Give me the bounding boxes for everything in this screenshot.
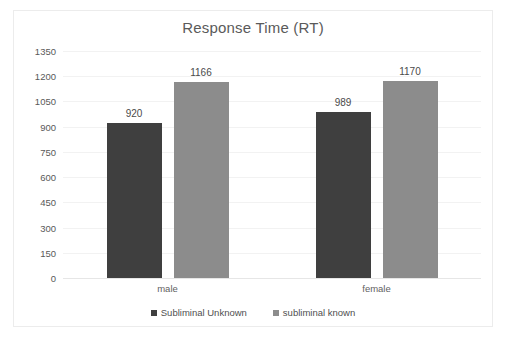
y-axis-tick-label: 300 (40, 222, 56, 233)
legend-item[interactable]: Subliminal Unknown (151, 307, 247, 318)
bar-value-label: 1170 (399, 66, 421, 77)
y-axis-tick-label: 1200 (35, 71, 56, 82)
legend-swatch-icon (273, 310, 279, 316)
bar-value-label: 920 (126, 108, 143, 119)
bar (107, 123, 162, 278)
legend-label: subliminal known (283, 307, 355, 318)
x-axis-category-label: male (157, 283, 178, 294)
y-axis-tick-label: 1350 (35, 46, 56, 57)
legend-swatch-icon (151, 310, 157, 316)
chart-legend: Subliminal Unknownsubliminal known (14, 307, 492, 318)
y-axis-tick-label: 450 (40, 197, 56, 208)
y-axis-tick-label: 750 (40, 146, 56, 157)
gridline (63, 278, 481, 279)
bar (174, 82, 229, 278)
bar (383, 81, 438, 278)
y-axis-tick-label: 0 (51, 273, 56, 284)
y-axis-tick-label: 900 (40, 121, 56, 132)
chart-frame: Response Time (RT) 135012001050900750600… (13, 10, 493, 327)
x-axis-category-label: female (362, 283, 391, 294)
bar-value-label: 989 (335, 97, 352, 108)
chart-title: Response Time (RT) (14, 19, 492, 36)
gridline (63, 51, 481, 52)
legend-item[interactable]: subliminal known (273, 307, 355, 318)
y-axis-tick-label: 600 (40, 172, 56, 183)
plot-area: 13501200105090075060045030015009201166ma… (63, 51, 481, 278)
bar-value-label: 1166 (190, 67, 212, 78)
y-axis-tick-label: 1050 (35, 96, 56, 107)
y-axis-tick-label: 150 (40, 247, 56, 258)
legend-label: Subliminal Unknown (161, 307, 247, 318)
bar (316, 112, 371, 278)
